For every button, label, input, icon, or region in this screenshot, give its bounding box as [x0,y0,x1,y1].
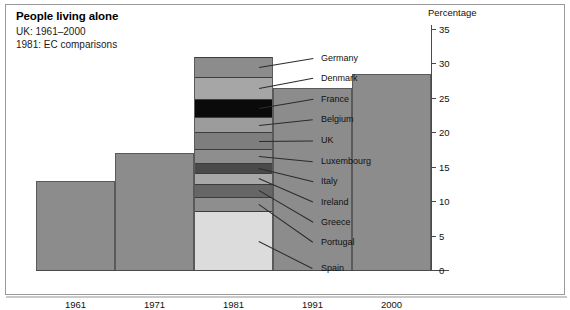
y-tick-15 [431,167,436,168]
y-tick-25 [431,98,436,99]
y-tick-label-15: 15 [439,161,450,172]
y-tick-30 [431,63,436,64]
callout-label-italy: Italy [321,176,338,186]
y-axis-line [431,25,432,270]
y-tick-label-0: 0 [439,265,444,276]
callout-label-belgium: Belgium [321,114,354,124]
callout-label-greece: Greece [321,217,351,227]
y-tick-label-35: 35 [439,24,450,35]
callout-leader-uk [259,140,313,142]
x-axis-label-1981: 1981 [194,299,273,310]
y-tick-10 [431,201,436,202]
callout-label-ireland: Ireland [321,197,349,207]
y-tick-label-5: 5 [439,230,444,241]
plot-area: 05101520253035 19611971198119912000 Germ… [36,20,460,276]
x-axis-label-1991: 1991 [273,299,352,310]
x-axis-label-1961: 1961 [36,299,115,310]
x-axis-label-2000: 2000 [352,299,431,310]
figure-frame-shadow [6,296,567,298]
bars-group [36,26,431,270]
y-tick-0 [431,270,436,271]
callout-label-uk: UK [321,135,334,145]
bar-1961[interactable] [36,181,115,271]
y-tick-label-20: 20 [439,127,450,138]
callout-label-portugal: Portugal [321,237,355,247]
callout-label-france: France [321,94,349,104]
callout-label-denmark: Denmark [321,73,358,83]
y-tick-5 [431,236,436,237]
bar-1971[interactable] [115,153,194,270]
callout-label-spain: Spain [321,263,344,273]
x-axis-baseline [36,270,449,271]
y-tick-label-10: 10 [439,196,450,207]
y-tick-label-30: 30 [439,58,450,69]
y-tick-label-25: 25 [439,92,450,103]
x-axis-label-1971: 1971 [115,299,194,310]
bar-2000[interactable] [352,74,431,270]
callout-label-germany: Germany [321,53,358,63]
callout-label-luxembourg: Luxembourg [321,156,371,166]
y-tick-35 [431,29,436,30]
y-axis-caption: Percentage [428,7,477,18]
y-tick-20 [431,132,436,133]
